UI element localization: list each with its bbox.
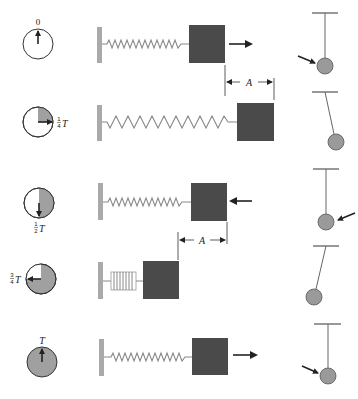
svg-text:T: T — [62, 118, 69, 129]
clock-icon: 0 — [23, 17, 53, 59]
time-label: 0 — [36, 17, 41, 27]
wall — [99, 339, 104, 376]
pendulum — [306, 246, 339, 305]
block — [143, 261, 179, 299]
block — [189, 25, 225, 63]
svg-text:1: 1 — [57, 116, 61, 122]
row-1: 0 — [23, 13, 338, 74]
block — [237, 103, 274, 141]
clock-icon — [23, 107, 53, 137]
svg-text:1: 1 — [34, 221, 38, 227]
pendulum-velocity-arrow-icon — [302, 366, 318, 373]
pendulum-velocity-arrow-icon — [298, 56, 315, 63]
wall — [98, 262, 103, 299]
spring — [102, 116, 238, 128]
pendulum-velocity-arrow-icon — [338, 213, 355, 220]
svg-text:T: T — [15, 274, 22, 285]
spring — [103, 272, 143, 290]
amplitude-label: A — [198, 235, 206, 246]
wall — [97, 105, 102, 141]
oscillation-diagram: 0 A 1 4 T — [0, 0, 358, 399]
wall — [98, 183, 103, 220]
amplitude-marker: A — [178, 222, 227, 260]
pendulum — [313, 169, 355, 230]
block — [192, 338, 228, 375]
pendulum — [302, 324, 341, 384]
time-label: 3 4 T — [10, 272, 22, 285]
amplitude-label: A — [245, 77, 253, 88]
svg-text:4: 4 — [10, 279, 14, 285]
row-4: 3 4 T — [10, 246, 339, 305]
row-5: T — [27, 324, 341, 384]
clock-icon — [26, 264, 56, 294]
svg-text:2: 2 — [34, 228, 38, 234]
clock-icon — [24, 188, 54, 218]
time-label: 1 4 T — [57, 116, 69, 129]
amplitude-marker: A — [225, 65, 274, 100]
spring — [103, 198, 191, 206]
row-2: 1 4 T — [23, 92, 344, 150]
svg-text:4: 4 — [57, 123, 61, 129]
spring — [104, 353, 193, 361]
pendulum — [298, 13, 338, 74]
block — [191, 183, 227, 221]
wall — [97, 27, 102, 63]
time-label: T — [39, 335, 46, 346]
spring — [102, 40, 190, 48]
clock-icon: T — [27, 335, 57, 377]
pendulum — [312, 92, 344, 150]
svg-text:3: 3 — [10, 272, 14, 278]
svg-text:T: T — [39, 223, 46, 234]
time-label: 1 2 T — [34, 221, 46, 234]
row-3: 1 2 T — [24, 169, 355, 234]
